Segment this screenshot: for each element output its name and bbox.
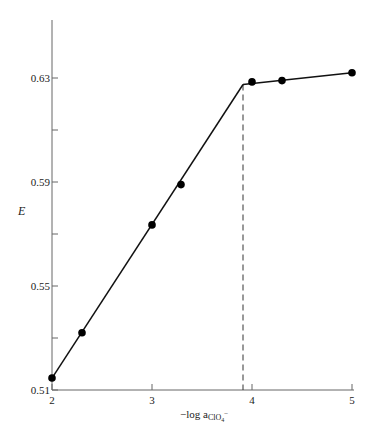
x-tick-label: 3 [149,394,155,406]
data-point-marker [348,69,356,77]
data-point-marker [248,78,256,86]
data-point-marker [78,329,86,337]
data-point-marker [148,221,156,229]
data-point-marker [177,181,185,189]
fit-lines [52,73,352,378]
x-tick-label: 4 [249,394,255,406]
x-axis-label: −log aClO4− [180,408,228,423]
x-tick-label: 5 [349,394,355,406]
y-tick-label: 0.55 [31,280,51,292]
data-point-marker [278,77,286,85]
chart: 23450.510.550.590.63 E −log aClO4− [0,0,375,437]
y-tick-label: 0.59 [31,176,51,188]
x-tick-label: 2 [49,394,55,406]
fit-line [243,73,352,85]
y-axis-label: E [17,204,26,218]
data-points [48,69,356,382]
y-tick-label: 0.51 [31,384,50,396]
y-tick-label: 0.63 [31,72,51,84]
data-point-marker [48,374,56,382]
